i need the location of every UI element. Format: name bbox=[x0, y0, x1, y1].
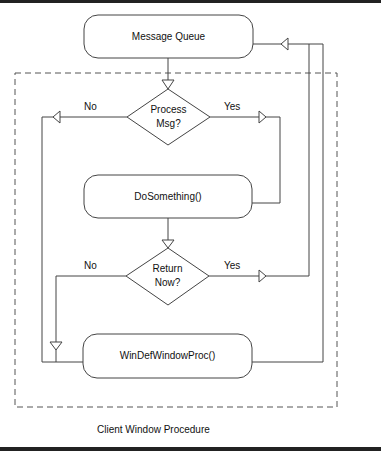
do-something-label: DoSomething() bbox=[84, 175, 252, 218]
arrow-down-icon bbox=[162, 80, 174, 89]
process-msg-label-line2: Msg? bbox=[156, 117, 180, 131]
win-def-window-proc-label: WinDefWindowProc() bbox=[83, 334, 252, 378]
process-msg-label: Process Msg? bbox=[127, 103, 210, 131]
arrow-right-icon bbox=[259, 111, 266, 123]
arrow-down-icon bbox=[162, 240, 174, 248]
process-no-label: No bbox=[84, 101, 97, 112]
return-now-label: Return Now? bbox=[126, 262, 209, 290]
process-yes-label: Yes bbox=[224, 101, 240, 112]
bottom-border bbox=[0, 447, 381, 451]
top-border bbox=[0, 0, 381, 3]
arrow-right-icon bbox=[259, 270, 266, 282]
diagram-caption: Client Window Procedure bbox=[97, 424, 210, 435]
arrow-left-icon bbox=[281, 38, 288, 50]
return-now-label-line1: Return bbox=[152, 262, 182, 276]
return-no-label: No bbox=[84, 260, 97, 271]
return-now-label-line2: Now? bbox=[155, 276, 181, 290]
process-msg-label-line1: Process bbox=[150, 103, 186, 117]
arrow-down-icon bbox=[50, 342, 62, 350]
arrow-left-icon bbox=[53, 111, 60, 123]
message-queue-label: Message Queue bbox=[84, 15, 253, 58]
flowchart-canvas bbox=[0, 0, 381, 451]
return-yes-label: Yes bbox=[224, 260, 240, 271]
